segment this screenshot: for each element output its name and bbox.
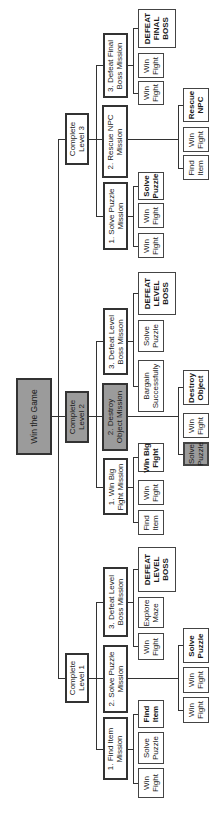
task-label: Solve Puzzle	[187, 633, 205, 658]
connector	[96, 341, 103, 342]
level3-connector	[58, 139, 65, 140]
mission-label: 1. Find Item Mission	[107, 727, 125, 769]
connector	[89, 416, 103, 417]
root-node: Win the Game	[16, 378, 52, 455]
level3-node: Complete Level 3	[65, 113, 89, 165]
task-node: Destroy Object	[183, 370, 209, 405]
task-label: Explore Maze	[142, 599, 160, 626]
task-node: Win Fight	[138, 81, 164, 105]
task-label: Find Item	[142, 515, 160, 531]
connector	[96, 65, 103, 66]
task-node: Win Fight	[138, 203, 164, 228]
task-node: Win Fight	[183, 127, 209, 152]
mission-label: 3. Defeat Final Boss Mission	[107, 39, 125, 91]
connector	[96, 487, 103, 488]
connector	[96, 216, 103, 217]
task-label: DEFEAT LEVEL BOSS	[144, 554, 171, 585]
task-label: Solve Puzzle	[142, 736, 160, 760]
task-node: Win Fight	[183, 697, 209, 723]
connector	[133, 714, 134, 783]
mission-label: 3. Defeat Level Boss Mission	[107, 575, 125, 629]
task-node: Bargain Successfully	[138, 360, 164, 412]
mission-label: 2. Solve Puzzle Mission	[107, 651, 125, 706]
task-node: Explore Maze	[138, 597, 164, 628]
level2-connector	[58, 416, 65, 417]
task-label: Bargain Successfully	[142, 364, 160, 408]
task-node: Find Item	[138, 510, 164, 535]
task-node: DEFEAT FINAL BOSS	[138, 9, 176, 48]
task-node: DEFEAT LEVEL BOSS	[138, 547, 176, 592]
mission-find-item: 1. Find Item Mission	[103, 717, 128, 780]
mission-win-big-fight: 1. Win Big Fight Mission	[103, 458, 128, 515]
task-label: Solve Puzzle	[142, 324, 160, 348]
task-label: Solve Puzzle	[187, 442, 205, 466]
connector	[89, 139, 103, 140]
task-label: Solve Puzzle	[142, 174, 160, 199]
task-node: Win Fight	[183, 667, 209, 693]
task-node: Rescue NPC	[183, 88, 209, 122]
level2-node: Complete Level 2	[65, 391, 89, 443]
connector	[178, 645, 179, 710]
mission-solve-puzzle-l3: 1. Solve Puzzle Mission	[103, 182, 128, 250]
level3-mission-trunk	[96, 65, 97, 216]
level2-label: Complete Level 2	[68, 400, 86, 434]
connector	[128, 416, 178, 417]
connector	[96, 749, 103, 750]
connector	[133, 569, 134, 646]
mission-label: 2. Destroy Object Mission	[106, 391, 124, 443]
connector	[178, 105, 179, 168]
task-node: Solve Puzzle	[138, 172, 164, 200]
task-label: Find Item	[142, 706, 160, 723]
level3-label: Complete Level 3	[68, 122, 86, 156]
task-node: Win Fight	[138, 53, 164, 78]
root-label: Win the Game	[30, 389, 39, 443]
mission-defeat-final-boss: 3. Defeat Final Boss Mission	[103, 33, 128, 98]
connector	[133, 293, 134, 386]
task-label: Win Fight	[187, 701, 205, 719]
mission-label: 2. Rescue NPC Mission	[106, 114, 124, 169]
level2-mission-trunk	[96, 341, 97, 487]
task-label: Win Fight	[187, 417, 205, 435]
connector	[133, 28, 134, 93]
task-label: DEFEAT FINAL BOSS	[144, 13, 171, 44]
mission-rescue-npc: 2. Rescue NPC Mission	[102, 105, 128, 178]
task-node: Win Fight	[183, 413, 209, 438]
task-label: Win Fight	[187, 671, 205, 689]
task-label: Win Big Fight	[142, 443, 160, 473]
connector	[128, 139, 178, 140]
level1-mission-trunk	[96, 602, 97, 749]
task-node: Find Item	[183, 155, 209, 180]
task-label: Win Fight	[142, 484, 160, 502]
task-label: Find Item	[187, 160, 205, 176]
task-label: Win Fight	[142, 237, 160, 255]
task-node: DEFEAT LEVEL BOSS	[138, 272, 176, 315]
task-node: Solve Puzzle	[183, 628, 209, 663]
task-node: Win Fight	[138, 480, 164, 505]
task-label: Win Fight	[142, 84, 160, 102]
level1-connector	[58, 678, 65, 679]
task-label: Win Fight	[142, 774, 160, 792]
task-node: Solve Puzzle	[183, 442, 209, 466]
task-node: Win Fight	[138, 768, 164, 798]
task-node: Win Fight	[138, 633, 164, 660]
task-node: Solve Puzzle	[138, 732, 164, 764]
task-label: Destroy Object	[187, 373, 205, 403]
mission-label: 1. Win Big Fight Mission	[107, 463, 125, 510]
task-label: Rescue NPC	[187, 91, 205, 119]
mission-defeat-level-boss-l1: 3. Defeat Level Boss Mission	[103, 567, 128, 637]
mission-destroy-object: 2. Destroy Object Mission	[102, 383, 128, 451]
connector	[89, 678, 103, 679]
task-node: Win Fight	[138, 233, 164, 258]
mission-label: 1. Solve Puzzle Mission	[107, 188, 125, 243]
task-label: DEFEAT LEVEL BOSS	[144, 278, 171, 309]
task-node: Solve Puzzle	[138, 320, 164, 352]
connector	[96, 602, 103, 603]
level1-label: Complete Level 1	[68, 661, 86, 695]
task-label: Win Fight	[187, 131, 205, 149]
task-node: Find Item	[138, 700, 164, 728]
connector	[128, 678, 178, 679]
level1-node: Complete Level 1	[65, 653, 89, 703]
task-label: Win Fight	[142, 207, 160, 225]
mission-solve-puzzle-l1: 2. Solve Puzzle Mission	[103, 645, 128, 713]
mission-defeat-level-boss-l2: 3. Defeat Level Boss Misson	[103, 308, 128, 375]
